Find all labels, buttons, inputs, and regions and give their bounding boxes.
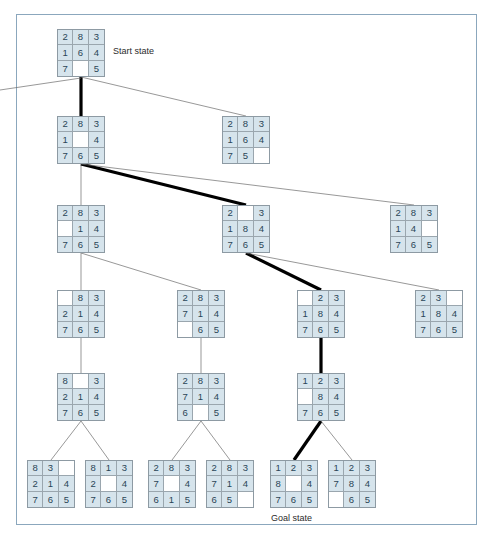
- puzzle-tile: 4: [329, 306, 344, 321]
- puzzle-tile: 4: [89, 221, 104, 236]
- puzzle-tile: 8: [313, 306, 328, 321]
- puzzle-tile: 4: [89, 306, 104, 321]
- puzzle-tile: 6: [73, 45, 88, 60]
- puzzle-blank-cell: [447, 291, 462, 306]
- puzzle-tile: 6: [238, 132, 253, 147]
- puzzle-tile: 5: [222, 492, 237, 507]
- puzzle-state-n5: 28314765: [390, 205, 438, 253]
- puzzle-tile: 4: [180, 476, 195, 491]
- puzzle-tile: 5: [254, 237, 269, 252]
- puzzle-tile: 4: [209, 306, 224, 321]
- puzzle-tile: 7: [298, 405, 313, 420]
- puzzle-tile: 8: [406, 206, 421, 221]
- puzzle-state-n0: 28316475: [57, 29, 105, 77]
- puzzle-tile: 7: [58, 148, 73, 163]
- puzzle-tile: 8: [73, 30, 88, 45]
- puzzle-state-n3: 28314765: [57, 205, 105, 253]
- puzzle-tile: 6: [193, 322, 208, 337]
- puzzle-tile: 6: [406, 237, 421, 252]
- puzzle-tile: 5: [447, 322, 462, 337]
- puzzle-tile: 4: [254, 221, 269, 236]
- puzzle-tile: 8: [222, 461, 237, 476]
- puzzle-blank-cell: [58, 291, 73, 306]
- puzzle-tile: 3: [302, 461, 317, 476]
- puzzle-tile: 4: [360, 476, 375, 491]
- puzzle-tile: 6: [313, 405, 328, 420]
- puzzle-tile: 1: [43, 476, 58, 491]
- puzzle-tile: 1: [271, 461, 286, 476]
- figure-frame: [16, 14, 477, 525]
- puzzle-blank-cell: [286, 476, 301, 491]
- puzzle-tile: 5: [329, 322, 344, 337]
- puzzle-tile: 1: [58, 132, 73, 147]
- puzzle-tile: 2: [416, 291, 431, 306]
- puzzle-tile: 4: [329, 389, 344, 404]
- puzzle-tile: 7: [86, 492, 101, 507]
- puzzle-tile: 4: [117, 476, 132, 491]
- puzzle-blank-cell: [193, 405, 208, 420]
- puzzle-tile: 7: [58, 61, 73, 76]
- puzzle-tile: 3: [329, 291, 344, 306]
- puzzle-tile: 5: [209, 322, 224, 337]
- puzzle-tile: 6: [238, 237, 253, 252]
- puzzle-tile: 1: [73, 389, 88, 404]
- puzzle-tile: 7: [329, 476, 344, 491]
- puzzle-blank-cell: [298, 389, 313, 404]
- puzzle-tile: 2: [178, 374, 193, 389]
- puzzle-tile: 7: [223, 148, 238, 163]
- puzzle-tile: 2: [58, 306, 73, 321]
- puzzle-tile: 2: [28, 476, 43, 491]
- puzzle-blank-cell: [73, 132, 88, 147]
- puzzle-tile: 3: [89, 30, 104, 45]
- puzzle-tile: 8: [86, 461, 101, 476]
- puzzle-tile: 3: [117, 461, 132, 476]
- puzzle-tile: 2: [86, 476, 101, 491]
- puzzle-tile: 1: [101, 461, 116, 476]
- puzzle-state-n6: 83214765: [57, 290, 105, 338]
- puzzle-blank-cell: [329, 492, 344, 507]
- puzzle-tile: 7: [58, 322, 73, 337]
- puzzle-state-n14: 81324765: [85, 460, 133, 508]
- puzzle-tile: 6: [73, 148, 88, 163]
- puzzle-tile: 7: [207, 476, 222, 491]
- puzzle-state-n8: 23184765: [297, 290, 345, 338]
- puzzle-tile: 8: [344, 476, 359, 491]
- puzzle-tile: 5: [238, 148, 253, 163]
- puzzle-state-n18: 12378465: [328, 460, 376, 508]
- puzzle-blank-cell: [73, 61, 88, 76]
- puzzle-state-n7: 28371465: [177, 290, 225, 338]
- puzzle-tile: 7: [271, 492, 286, 507]
- puzzle-blank-cell: [238, 492, 253, 507]
- puzzle-blank-cell: [101, 476, 116, 491]
- puzzle-tile: 4: [59, 476, 74, 491]
- puzzle-tile: 5: [89, 322, 104, 337]
- puzzle-tile: 1: [416, 306, 431, 321]
- puzzle-tile: 6: [286, 492, 301, 507]
- puzzle-tile: 1: [223, 221, 238, 236]
- puzzle-tile: 8: [238, 117, 253, 132]
- puzzle-blank-cell: [58, 221, 73, 236]
- puzzle-tile: 1: [58, 45, 73, 60]
- puzzle-tile: 5: [180, 492, 195, 507]
- puzzle-tile: 2: [391, 206, 406, 221]
- puzzle-blank-cell: [178, 322, 193, 337]
- puzzle-tile: 5: [329, 405, 344, 420]
- puzzle-tile: 5: [117, 492, 132, 507]
- puzzle-state-n9: 23184765: [415, 290, 463, 338]
- puzzle-tile: 3: [360, 461, 375, 476]
- puzzle-tile: 4: [89, 389, 104, 404]
- puzzle-state-n15: 28374615: [148, 460, 196, 508]
- puzzle-tile: 7: [178, 389, 193, 404]
- puzzle-tile: 1: [73, 221, 88, 236]
- puzzle-tile: 6: [149, 492, 164, 507]
- puzzle-tile: 2: [313, 291, 328, 306]
- puzzle-tile: 8: [193, 291, 208, 306]
- puzzle-tile: 2: [223, 206, 238, 221]
- puzzle-tile: 1: [193, 306, 208, 321]
- puzzle-tile: 1: [391, 221, 406, 236]
- puzzle-tile: 5: [59, 492, 74, 507]
- puzzle-tile: 8: [73, 291, 88, 306]
- puzzle-tile: 3: [89, 117, 104, 132]
- puzzle-tile: 1: [164, 492, 179, 507]
- puzzle-tile: 5: [209, 405, 224, 420]
